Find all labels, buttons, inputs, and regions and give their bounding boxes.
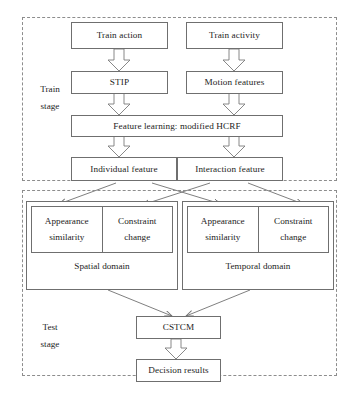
- node-feature-learning: Feature learning: modified HCRF: [71, 115, 283, 137]
- temporal-domain-caption: Temporal domain: [183, 255, 333, 277]
- spatial-constraint-change-line2: change: [124, 230, 150, 246]
- spatial-domain-cells: Appearance similarity Constraint change: [31, 206, 173, 253]
- temporal-constraint-change-line2: change: [280, 230, 306, 246]
- train-stage-label-line1: Train: [40, 81, 60, 98]
- node-stip: STIP: [71, 71, 168, 94]
- temporal-appearance-similarity-line2: similarity: [205, 230, 240, 246]
- spatial-domain-group: Appearance similarity Constraint change …: [26, 201, 178, 290]
- node-train-action: Train action: [71, 22, 168, 49]
- temporal-constraint-change-cell: Constraint change: [258, 207, 329, 252]
- test-stage-label-line2: stage: [41, 336, 60, 353]
- spatial-appearance-similarity-cell: Appearance similarity: [32, 207, 102, 252]
- spatial-constraint-change-line1: Constraint: [118, 214, 156, 230]
- node-cstcm: CSTCM: [136, 316, 221, 339]
- test-stage-label: Test stage: [26, 316, 74, 356]
- temporal-constraint-change-line1: Constraint: [274, 214, 312, 230]
- test-stage-label-line1: Test: [42, 319, 57, 336]
- temporal-domain-cells: Appearance similarity Constraint change: [187, 206, 329, 253]
- temporal-appearance-similarity-cell: Appearance similarity: [188, 207, 258, 252]
- node-decision-results: Decision results: [136, 359, 221, 382]
- spatial-appearance-similarity-line2: similarity: [49, 230, 84, 246]
- node-train-activity: Train activity: [186, 22, 283, 49]
- temporal-appearance-similarity-line1: Appearance: [201, 214, 245, 230]
- node-individual-feature: Individual feature: [71, 157, 177, 181]
- spatial-domain-caption: Spatial domain: [27, 255, 177, 277]
- node-interaction-feature: Interaction feature: [177, 157, 283, 181]
- temporal-domain-group: Appearance similarity Constraint change …: [182, 201, 334, 290]
- node-motion-features: Motion features: [186, 71, 283, 94]
- train-stage-label-line2: stage: [41, 98, 60, 115]
- spatial-constraint-change-cell: Constraint change: [102, 207, 173, 252]
- flowchart-diagram: Train stage Train action Train activity …: [0, 0, 357, 394]
- train-stage-label: Train stage: [26, 78, 74, 118]
- spatial-appearance-similarity-line1: Appearance: [45, 214, 89, 230]
